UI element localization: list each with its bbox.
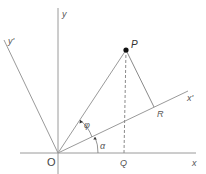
label-phi: φ xyxy=(84,120,90,130)
op-segment xyxy=(58,50,126,153)
pr-segment xyxy=(126,50,154,107)
label-q: Q xyxy=(120,158,127,168)
label-y-prime: y' xyxy=(7,36,15,46)
label-p: P xyxy=(131,39,138,50)
label-alpha: α xyxy=(100,141,106,151)
label-o: O xyxy=(47,156,56,168)
label-r: R xyxy=(157,109,164,119)
pq-segment xyxy=(124,50,126,153)
rotated-axes-diagram: y y' P x' R φ α O Q x xyxy=(0,0,206,174)
label-y: y xyxy=(61,9,67,19)
label-x-prime: x' xyxy=(186,93,194,103)
x-prime-axis xyxy=(58,91,188,153)
y-prime-axis xyxy=(4,40,58,153)
label-x: x xyxy=(191,158,197,168)
point-p xyxy=(123,47,128,52)
alpha-arrow-icon xyxy=(93,137,97,140)
